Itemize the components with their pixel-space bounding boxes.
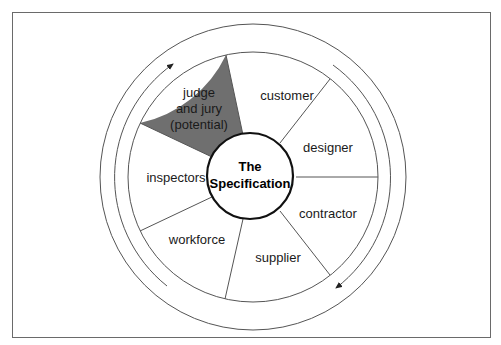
center-title-line1: The xyxy=(238,159,261,174)
specification-wheel-diagram: The Specification customer designer cont… xyxy=(0,0,501,345)
label-contractor: contractor xyxy=(299,206,357,221)
label-designer: designer xyxy=(303,140,354,155)
label-judge-line1: judge xyxy=(182,85,215,100)
label-inspectors: inspectors xyxy=(146,170,206,185)
label-supplier: supplier xyxy=(255,250,301,265)
label-workforce: workforce xyxy=(168,232,225,247)
label-customer: customer xyxy=(260,88,314,103)
label-judge-line2: and jury xyxy=(176,101,223,116)
center-title-line2: Specification xyxy=(210,176,291,191)
label-judge-line3: (potential) xyxy=(170,117,228,132)
